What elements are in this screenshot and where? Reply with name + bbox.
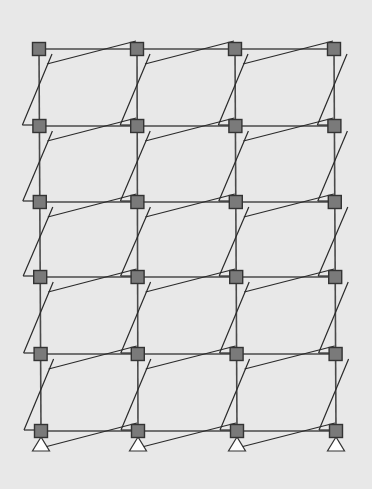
node-marker (33, 43, 46, 56)
undeformed-frame (39, 49, 336, 431)
column-deformed (317, 54, 347, 125)
supports (33, 437, 345, 451)
column-deformed (22, 54, 52, 125)
node-marker (230, 348, 243, 361)
column-deformed (319, 359, 349, 430)
beam-deformed (48, 194, 137, 217)
node-marker (131, 120, 144, 133)
beam-deformed (243, 41, 333, 64)
pin-support-icon (328, 437, 345, 451)
node-marker (131, 43, 144, 56)
beam-deformed (244, 194, 334, 217)
column-deformed (121, 207, 151, 276)
column-deformed (24, 359, 54, 430)
beam-deformed (145, 41, 234, 64)
column-deformed (23, 131, 53, 201)
node-marker (328, 120, 341, 133)
beam-deformed (244, 269, 334, 292)
nodes (33, 43, 343, 438)
node-marker (33, 120, 46, 133)
column-deformed (220, 359, 250, 430)
node-marker (230, 271, 243, 284)
column-deformed (24, 282, 54, 353)
node-marker (329, 271, 342, 284)
node-marker (229, 120, 242, 133)
node-marker (34, 271, 47, 284)
node-marker (33, 196, 46, 209)
node-marker (35, 425, 48, 438)
node-marker (330, 425, 343, 438)
beam-deformed (146, 346, 236, 369)
node-marker (131, 196, 144, 209)
pin-support-icon (33, 437, 50, 451)
pin-support-icon (229, 437, 246, 451)
node-marker (328, 196, 341, 209)
deformed-shape (22, 41, 348, 448)
node-marker (329, 348, 342, 361)
frame-diagram (0, 0, 372, 489)
beam-deformed (245, 346, 335, 369)
node-marker (34, 348, 47, 361)
node-marker (231, 425, 244, 438)
pin-support-icon (130, 437, 147, 451)
beam-deformed (47, 41, 136, 64)
beam-deformed (145, 118, 234, 141)
node-marker (229, 43, 242, 56)
beam-deformed (48, 269, 136, 292)
column-deformed (219, 131, 249, 201)
node-marker (132, 425, 145, 438)
column-deformed (120, 131, 150, 201)
column-deformed (220, 282, 250, 353)
node-marker (229, 196, 242, 209)
column-deformed (218, 54, 248, 125)
column-deformed (318, 131, 348, 201)
column-deformed (23, 207, 53, 276)
beam-deformed (146, 269, 236, 292)
column-deformed (318, 207, 348, 276)
column-deformed (121, 359, 151, 430)
beam-deformed (49, 346, 137, 369)
column-deformed (121, 282, 151, 353)
node-marker (131, 271, 144, 284)
beam-deformed (47, 118, 136, 141)
beam-deformed (243, 118, 333, 141)
frame-diagram-canvas (0, 0, 372, 489)
beam-deformed (145, 194, 234, 217)
node-marker (328, 43, 341, 56)
column-deformed (319, 282, 349, 353)
node-marker (131, 348, 144, 361)
column-deformed (120, 54, 150, 125)
column-deformed (219, 207, 249, 276)
